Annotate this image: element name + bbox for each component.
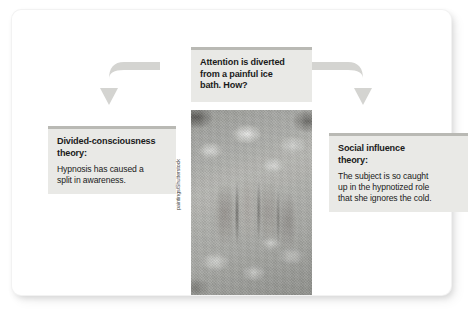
- social-influence-box: Social influence theory: The subject is …: [329, 133, 468, 212]
- arrow-left-icon: [98, 52, 160, 108]
- social-influence-heading: Social influence theory:: [338, 143, 459, 166]
- question-box: Attention is diverted from a painful ice…: [191, 47, 312, 102]
- ice-bath-photo: [191, 110, 312, 295]
- arrow-right-icon: [312, 52, 374, 108]
- divided-consciousness-heading: Divided-consciousness theory:: [57, 136, 167, 159]
- social-influence-body: The subject is so caught up in the hypno…: [338, 171, 459, 204]
- photo-credit: paintings/Shutterstock: [175, 120, 181, 210]
- divided-consciousness-box: Divided-consciousness theory: Hypnosis h…: [48, 126, 176, 194]
- question-box-heading: Attention is diverted from a painful ice…: [200, 57, 303, 92]
- divided-consciousness-body: Hypnosis has caused a split in awareness…: [57, 164, 167, 186]
- ice-bath-photo-image: [191, 110, 312, 295]
- figure-card: paintings/Shutterstock Attention is dive…: [12, 10, 451, 295]
